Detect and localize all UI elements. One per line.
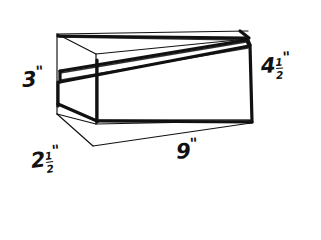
- dimension-label-length-bottom: 9": [175, 139, 197, 162]
- fraction-denominator-depth-front: 2: [46, 161, 55, 174]
- inch-mark-length-bottom: ": [189, 134, 197, 152]
- dimension-value-height-right: 4: [260, 53, 275, 78]
- dimension-label-height-right: 412": [260, 53, 290, 80]
- inch-mark-height-right: ": [282, 48, 290, 66]
- dimension-label-height-left: 3": [21, 67, 43, 91]
- dimension-label-depth-front: 212": [30, 146, 62, 175]
- dimension-value-length-bottom: 9: [175, 139, 190, 164]
- inch-mark-height-left: ": [35, 62, 43, 80]
- right-face-right-vertical: [250, 45, 252, 122]
- solid-front-bottom-edge: [98, 121, 251, 122]
- fraction-denominator-height-right: 2: [276, 68, 284, 81]
